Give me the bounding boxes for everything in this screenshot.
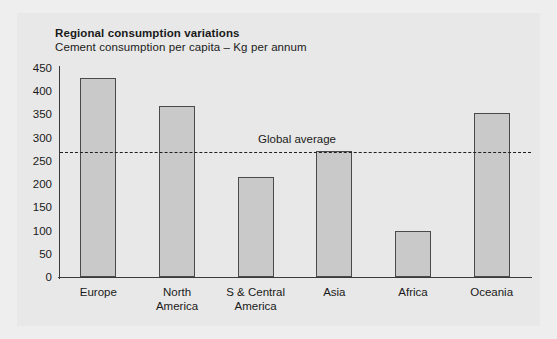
bar xyxy=(80,78,116,277)
plot-area xyxy=(59,68,531,277)
y-axis-tick-label: 400 xyxy=(33,85,52,97)
x-axis-line xyxy=(58,277,532,278)
global-average-label: Global average xyxy=(258,133,336,145)
y-axis-tick-label: 200 xyxy=(33,178,52,190)
y-axis-tick-label: 0 xyxy=(46,271,52,283)
bar xyxy=(316,151,352,277)
chart-subtitle: Cement consumption per capita – Kg per a… xyxy=(55,40,307,54)
chart-title-block: Regional consumption variations Cement c… xyxy=(55,26,307,55)
y-axis-tick-label: 100 xyxy=(33,225,52,237)
bar xyxy=(474,113,510,277)
y-axis-tick-label: 300 xyxy=(33,132,52,144)
y-axis-tick-label: 50 xyxy=(39,248,52,260)
bar xyxy=(159,106,195,277)
bar xyxy=(395,231,431,277)
y-axis-tick-label: 350 xyxy=(33,108,52,120)
bar xyxy=(238,177,274,277)
chart-title: Regional consumption variations xyxy=(55,26,307,40)
y-axis-tick-label: 150 xyxy=(33,201,52,213)
y-axis-tick-labels: 050100150200250300350400450 xyxy=(0,0,52,339)
chart-figure: Regional consumption variations Cement c… xyxy=(0,0,557,339)
global-average-line xyxy=(60,152,531,153)
x-axis-category-label: Oceania xyxy=(442,286,542,300)
y-axis-tick-label: 250 xyxy=(33,155,52,167)
y-axis-tick-label: 450 xyxy=(33,62,52,74)
